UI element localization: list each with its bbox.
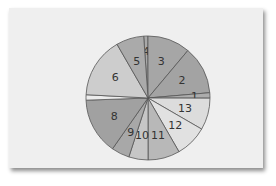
slice-label-5: 5	[133, 55, 140, 68]
slice-label-2: 2	[179, 74, 186, 87]
slice-label-9: 9	[127, 126, 134, 139]
slice-label-8: 8	[111, 110, 118, 123]
slice-label-11: 11	[151, 129, 165, 142]
pie-chart: 4321131211109865	[0, 0, 276, 186]
slice-label-6: 6	[112, 71, 119, 84]
slice-label-13: 13	[178, 102, 192, 115]
slice-label-12: 12	[168, 119, 182, 132]
slice-label-3: 3	[158, 55, 165, 68]
